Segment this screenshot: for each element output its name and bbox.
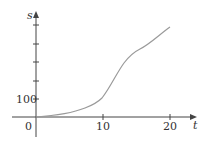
y-axis-label: s [27,9,33,22]
chart: s t 100 0 10 20 [0,0,207,146]
x-tick-label-20: 20 [163,120,177,133]
y-tick-label-100: 100 [16,93,37,106]
position-curve [36,27,170,117]
origin-label: 0 [25,120,32,133]
y-axis-arrow-icon [33,11,39,18]
x-tick-label-10: 10 [96,120,110,133]
x-axis-label: t [193,119,198,132]
